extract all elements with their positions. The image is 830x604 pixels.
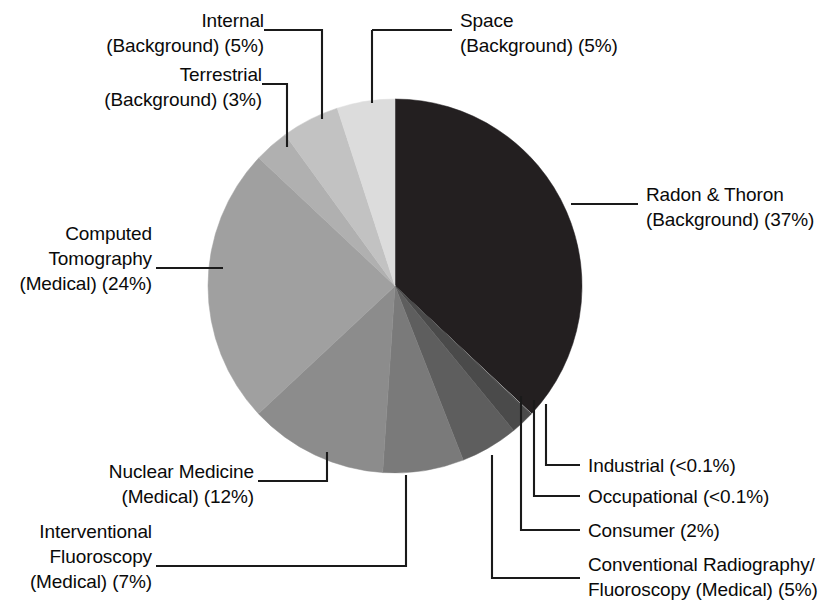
label-interventional-fluoroscopy-line1: Interventional <box>0 519 152 544</box>
label-consumer-line1: Consumer (2%) <box>588 518 720 543</box>
leader-line-nuclear-medicine <box>258 452 327 481</box>
label-internal-line2: (Background) (5%) <box>44 33 264 58</box>
label-terrestrial: Terrestrial (Background) (3%) <box>44 62 262 112</box>
label-computed-tomography: Computed Tomography (Medical) (24%) <box>0 221 152 296</box>
label-computed-tomography-line1: Computed <box>0 221 152 246</box>
label-computed-tomography-line3: (Medical) (24%) <box>0 271 152 296</box>
label-occupational-line1: Occupational (<0.1%) <box>588 484 769 509</box>
label-interventional-fluoroscopy-line3: (Medical) (7%) <box>0 569 152 594</box>
label-space-line2: (Background) (5%) <box>460 33 618 58</box>
label-internal: Internal (Background) (5%) <box>44 8 264 58</box>
label-space-line1: Space <box>460 8 618 33</box>
leader-line-occupational <box>534 400 580 496</box>
leader-line-consumer <box>521 396 580 530</box>
leader-line-industrial <box>546 404 580 465</box>
label-nuclear-medicine-line2: (Medical) (12%) <box>10 484 254 509</box>
label-industrial: Industrial (<0.1%) <box>588 453 736 478</box>
leader-line-conventional-radiography <box>492 455 580 578</box>
pie-chart-figure: Internal (Background) (5%) Terrestrial (… <box>0 0 830 604</box>
label-computed-tomography-line2: Tomography <box>0 246 152 271</box>
label-radon-thoron-line2: (Background) (37%) <box>646 207 814 232</box>
label-nuclear-medicine-line1: Nuclear Medicine <box>10 459 254 484</box>
label-interventional-fluoroscopy: Interventional Fluoroscopy (Medical) (7%… <box>0 519 152 594</box>
label-industrial-line1: Industrial (<0.1%) <box>588 453 736 478</box>
label-occupational: Occupational (<0.1%) <box>588 484 769 509</box>
label-terrestrial-line1: Terrestrial <box>44 62 262 87</box>
label-terrestrial-line2: (Background) (3%) <box>44 87 262 112</box>
label-interventional-fluoroscopy-line2: Fluoroscopy <box>0 544 152 569</box>
label-internal-line1: Internal <box>44 8 264 33</box>
label-conventional-radiography: Conventional Radiography/ Fluoroscopy (M… <box>588 552 818 602</box>
leader-line-internal <box>264 30 322 119</box>
label-space: Space (Background) (5%) <box>460 8 618 58</box>
label-consumer: Consumer (2%) <box>588 518 720 543</box>
pie-slice-group <box>208 99 582 473</box>
label-conventional-radiography-line1: Conventional Radiography/ <box>588 552 818 577</box>
label-radon-thoron-line1: Radon & Thoron <box>646 182 814 207</box>
label-nuclear-medicine: Nuclear Medicine (Medical) (12%) <box>10 459 254 509</box>
label-radon-thoron: Radon & Thoron (Background) (37%) <box>646 182 814 232</box>
label-conventional-radiography-line2: Fluoroscopy (Medical) (5%) <box>588 577 818 602</box>
